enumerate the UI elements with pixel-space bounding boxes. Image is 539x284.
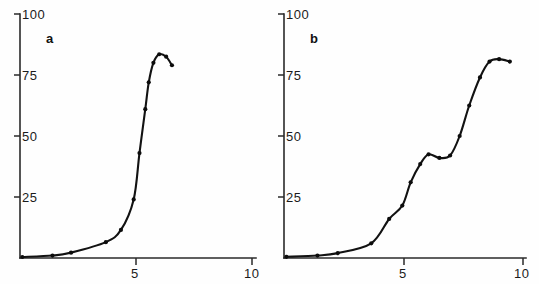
y-tick-label-25-a: 25	[22, 190, 37, 205]
curve-b-markers	[284, 57, 512, 259]
panel-b-plot: 100 75 50 25 5 10 b	[264, 0, 539, 284]
y-tick-label-25-b: 25	[286, 190, 301, 205]
panel-label-b: b	[310, 31, 318, 46]
data-point	[487, 59, 491, 63]
data-point	[164, 55, 168, 59]
curve-a-line	[22, 54, 172, 257]
data-point	[104, 240, 108, 244]
curve-b-line	[286, 59, 509, 257]
data-point	[20, 255, 24, 259]
y-tick-label-50-a: 50	[22, 129, 37, 144]
data-point	[147, 80, 151, 84]
data-point	[387, 217, 391, 221]
data-point	[69, 251, 73, 255]
data-point	[426, 152, 430, 156]
series-curve-a	[20, 52, 174, 259]
series-curve-b	[284, 57, 512, 259]
data-point	[119, 228, 123, 232]
data-point	[151, 61, 155, 65]
data-point	[137, 151, 141, 155]
chart-panel-a: 100 75 50 25 5 10 a	[0, 0, 270, 284]
data-point	[448, 153, 452, 157]
data-point	[132, 197, 136, 201]
data-point	[497, 57, 501, 61]
y-tick-label-100-a: 100	[22, 7, 45, 22]
data-point	[284, 255, 288, 259]
x-tick-label-10-a: 10	[244, 266, 259, 281]
data-point	[143, 107, 147, 111]
data-point	[458, 134, 462, 138]
data-point	[315, 253, 319, 257]
data-point	[157, 52, 161, 56]
data-point	[418, 162, 422, 166]
data-point	[478, 75, 482, 79]
data-point	[467, 103, 471, 107]
panel-label-a: a	[46, 31, 54, 46]
x-tick-label-5-b: 5	[399, 266, 407, 281]
data-point	[50, 253, 54, 257]
data-point	[437, 156, 441, 160]
chart-panel-b: 100 75 50 25 5 10 b	[264, 0, 539, 284]
data-point	[369, 241, 373, 245]
data-point	[508, 59, 512, 63]
data-point	[409, 180, 413, 184]
data-point	[336, 251, 340, 255]
data-point	[170, 63, 174, 67]
panel-a-plot: 100 75 50 25 5 10 a	[0, 0, 270, 284]
y-tick-label-75-a: 75	[22, 68, 37, 83]
data-point	[400, 203, 404, 207]
y-tick-label-75-b: 75	[286, 68, 301, 83]
figure-container: 100 75 50 25 5 10 a	[0, 0, 539, 284]
y-tick-label-100-b: 100	[286, 7, 309, 22]
x-tick-label-5-a: 5	[131, 266, 139, 281]
x-tick-label-10-b: 10	[514, 266, 529, 281]
curve-a-markers	[20, 52, 174, 259]
y-tick-label-50-b: 50	[286, 129, 301, 144]
